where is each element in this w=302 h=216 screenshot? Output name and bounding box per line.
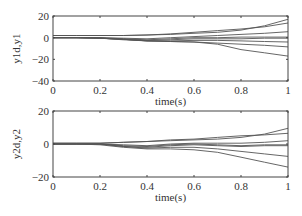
- y-tick-label: −20: [32, 53, 50, 65]
- y-tick-label: −40: [32, 75, 50, 87]
- x-tick-label: 1: [285, 84, 291, 96]
- y-tick-label: 20: [38, 10, 50, 22]
- x-tick-label: 0.8: [234, 180, 248, 192]
- x-tick-label: 0: [50, 180, 56, 192]
- x-tick-label: 0.4: [140, 84, 154, 96]
- x-tick-label: 0.6: [187, 180, 201, 192]
- figure: 00.20.40.60.81−40−20020time(s)y1d,y100.2…: [0, 0, 302, 216]
- series-group: [53, 128, 288, 167]
- y-axis-label: y1d,y1: [10, 33, 22, 63]
- x-axis-label: time(s): [155, 95, 186, 108]
- y-tick-label: 0: [44, 138, 50, 150]
- x-tick-label: 0.6: [187, 84, 201, 96]
- x-tick-label: 1: [285, 180, 291, 192]
- y-tick-label: 0: [44, 32, 50, 44]
- subplot-2: 00.20.40.60.81−20020time(s)y2d,y2: [10, 105, 291, 204]
- x-tick-label: 0.2: [93, 180, 107, 192]
- y-tick-label: −20: [32, 171, 50, 183]
- line-curve2: [53, 133, 288, 143]
- x-tick-label: 0.2: [93, 84, 107, 96]
- series-group: [53, 19, 288, 56]
- x-tick-label: 0.4: [140, 180, 154, 192]
- axes-frame: [53, 16, 288, 81]
- y-tick-label: 20: [38, 105, 50, 117]
- y-axis-label: y2d,y2: [10, 129, 22, 159]
- x-tick-label: 0: [50, 84, 56, 96]
- line-curve1: [53, 19, 288, 35]
- x-tick-label: 0.8: [234, 84, 248, 96]
- x-axis-label: time(s): [155, 191, 186, 204]
- subplot-1: 00.20.40.60.81−40−20020time(s)y1d,y1: [10, 10, 291, 108]
